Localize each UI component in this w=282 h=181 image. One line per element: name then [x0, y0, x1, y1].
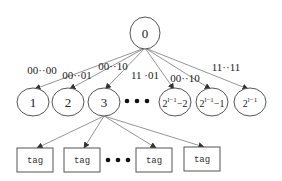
ellipsis-dot — [145, 99, 150, 104]
child-node: 2 — [52, 88, 84, 116]
tag-box: tag — [17, 148, 53, 172]
child-node: 2l−1−2 — [159, 88, 191, 116]
child-node: 3 — [88, 88, 120, 116]
edge-label: 00··10 — [98, 60, 128, 72]
tag-label: tag — [194, 155, 210, 165]
root-node: 0 — [130, 17, 160, 49]
edge-node-to-tag — [104, 116, 204, 147]
ellipsis-dot — [116, 158, 121, 163]
child-label: 1 — [30, 95, 37, 110]
ellipsis-dots-tags — [106, 158, 131, 163]
child-node: 1 — [17, 88, 49, 116]
edge-node-to-tag — [104, 116, 156, 148]
child-nodes: 1232l−1−22l−1−12l−1 — [17, 88, 266, 116]
edge-label: 11 ·01 — [131, 69, 159, 81]
edge-label: 00··00 — [27, 64, 57, 76]
ellipsis-dot — [126, 158, 131, 163]
root-label: 0 — [142, 26, 149, 41]
tag-box: tag — [64, 148, 100, 172]
tag-label: tag — [146, 156, 162, 166]
tag-box: tag — [184, 147, 220, 171]
child-label: 2 — [65, 95, 72, 110]
hash-tree-diagram: 0 1232l−1−22l−1−12l−1 00··0000··0100··10… — [0, 0, 282, 181]
tag-label: tag — [27, 156, 43, 166]
child-node: 2l−1 — [234, 88, 266, 116]
ellipsis-dot — [135, 99, 140, 104]
ellipsis-dots-children — [125, 99, 150, 104]
ellipsis-dot — [106, 158, 111, 163]
edge-label: 11··11 — [212, 61, 241, 73]
child-node: 2l−1−1 — [196, 88, 228, 116]
edge-labels: 00··0000··0100··1011 ·0100··1011··11 — [27, 60, 240, 84]
tag-edges — [37, 116, 204, 148]
edge-label: 00··10 — [170, 72, 200, 84]
tag-label: tag — [74, 156, 90, 166]
edge-label: 00··01 — [62, 69, 91, 81]
ellipsis-dot — [125, 99, 130, 104]
child-label: 3 — [101, 95, 108, 110]
tag-box: tag — [136, 148, 172, 172]
